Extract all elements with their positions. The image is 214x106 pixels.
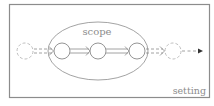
scope-node-2 bbox=[90, 43, 106, 59]
edge-node2-to-node3 bbox=[106, 47, 129, 56]
edge-output-onward bbox=[182, 49, 203, 54]
edge-node1-to-node2 bbox=[70, 47, 90, 56]
scope-label: scope bbox=[82, 26, 111, 37]
scope-node-3 bbox=[129, 43, 145, 59]
edge-node3-to-output bbox=[146, 47, 165, 56]
input-node-dashed bbox=[17, 43, 33, 59]
setting-label: setting bbox=[173, 85, 206, 96]
edge-input-to-node1 bbox=[34, 47, 54, 56]
output-node-dashed bbox=[165, 43, 181, 59]
diagram-canvas: scope setting bbox=[0, 0, 214, 106]
setting-frame bbox=[10, 5, 210, 98]
scope-node-1 bbox=[54, 43, 70, 59]
arrowhead-icon bbox=[198, 49, 203, 54]
